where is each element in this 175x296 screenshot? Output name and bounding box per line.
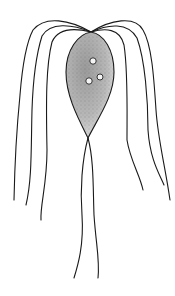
figure-canvas: flagellate protozoan illustration xyxy=(0,0,175,296)
granule xyxy=(90,58,96,64)
cell-body xyxy=(66,32,114,138)
granule xyxy=(97,74,103,80)
posterior-flagella xyxy=(74,138,99,278)
granule xyxy=(86,78,92,84)
protozoan-illustration xyxy=(0,0,175,296)
